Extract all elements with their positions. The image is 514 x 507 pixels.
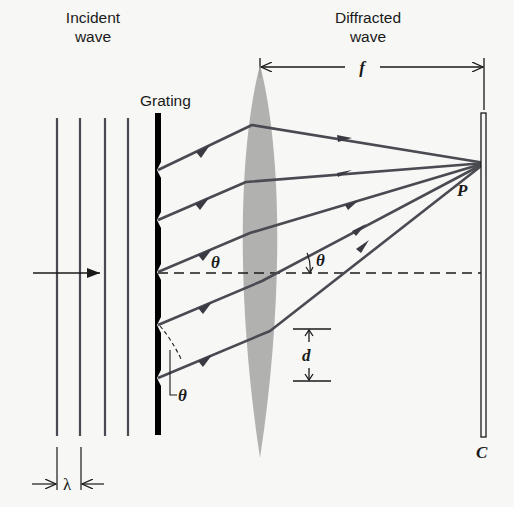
ray-4: [158, 163, 485, 325]
focal-length-dimension: [260, 58, 484, 110]
wavelength-symbol: λ: [63, 475, 72, 494]
screen: [481, 113, 486, 437]
focus-point-label: P: [456, 181, 468, 200]
diffracted-wave-label: Diffracted wave: [335, 9, 401, 45]
incident-wave-label: Incident wave: [66, 9, 121, 45]
converging-lens: [243, 65, 278, 458]
svg-text:wave: wave: [349, 28, 386, 45]
path-difference-construction: [160, 326, 181, 395]
arrow-icon: [198, 355, 212, 367]
ray-5: [158, 163, 485, 378]
screen-label: C: [476, 443, 488, 462]
grating: [155, 113, 161, 435]
grating-label: Grating: [140, 92, 191, 109]
slit-spacing-dimension: [293, 329, 331, 381]
arrow-icon: [352, 224, 366, 236]
incident-wavefronts: [57, 118, 128, 436]
focal-length-symbol: f: [359, 58, 367, 77]
angle-theta-left: θ: [211, 253, 220, 272]
diffraction-grating-diagram: Incident wave Diffracted wave Grating f: [0, 0, 514, 507]
ray-arrowheads: [195, 135, 369, 367]
angle-theta-right: θ: [316, 251, 325, 270]
arrow-icon: [196, 145, 210, 158]
svg-text:wave: wave: [74, 28, 111, 45]
svg-text:Diffracted: Diffracted: [335, 9, 401, 26]
svg-text:Incident: Incident: [66, 9, 121, 26]
slit-spacing-symbol: d: [302, 346, 311, 365]
angle-theta-bottom: θ: [178, 386, 187, 405]
arrow-icon: [356, 240, 369, 253]
